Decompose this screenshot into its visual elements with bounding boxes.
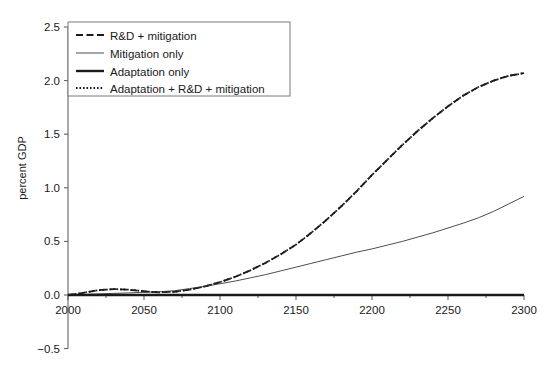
series-line xyxy=(68,73,524,295)
legend-item-label: Mitigation only xyxy=(110,48,184,60)
chart-legend: R&D + mitigationMitigation onlyAdaptatio… xyxy=(68,22,290,96)
x-tick-label: 2250 xyxy=(435,304,461,316)
y-axis-title-text: percent GDP xyxy=(16,136,28,200)
y-tick-label: 0.0 xyxy=(44,289,60,301)
x-tick-label: 2150 xyxy=(283,304,309,316)
y-tick-label: 1.0 xyxy=(44,182,60,194)
legend-item-label: Adaptation + R&D + mitigation xyxy=(110,83,265,95)
y-tick-label: −0.5 xyxy=(37,343,60,355)
y-tick-label: 1.5 xyxy=(44,128,60,140)
x-tick-label: 2100 xyxy=(207,304,233,316)
y-axis-title: percent GDP xyxy=(16,136,28,200)
x-tick-label: 2000 xyxy=(55,304,81,316)
series-line xyxy=(68,196,524,295)
x-axis: 2000205021002150220022502300 xyxy=(55,295,537,316)
x-tick-label: 2300 xyxy=(511,304,537,316)
y-tick-label: 2.5 xyxy=(44,21,60,33)
x-tick-label: 2050 xyxy=(131,304,157,316)
y-tick-label: 2.0 xyxy=(44,75,60,87)
y-tick-label: 0.5 xyxy=(44,235,60,247)
chart-figure: −0.50.00.51.01.52.02.5 20002050210021502… xyxy=(0,0,560,368)
x-tick-label: 2200 xyxy=(359,304,385,316)
data-series-group xyxy=(68,73,524,295)
line-chart: −0.50.00.51.01.52.02.5 20002050210021502… xyxy=(0,0,560,368)
series-line xyxy=(68,73,524,295)
legend-item-label: Adaptation only xyxy=(110,66,190,78)
legend-item-label: R&D + mitigation xyxy=(110,30,197,42)
